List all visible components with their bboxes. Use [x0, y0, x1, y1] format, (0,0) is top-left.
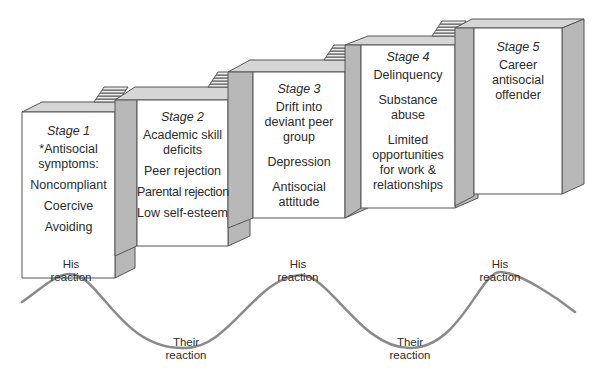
- stage-1-item: Avoiding: [22, 220, 115, 235]
- stage-2-title: Stage 2: [137, 110, 228, 125]
- stage-3-item: Depression: [258, 155, 340, 170]
- stage-5-text: Stage 5 Career antisocial offender: [478, 40, 558, 109]
- stage-5-item: Career antisocial offender: [478, 58, 558, 103]
- wave-label-his-reaction: His reaction: [272, 258, 324, 284]
- stage-1-title: Stage 1: [22, 124, 115, 139]
- stage-4-item: Substance abuse: [363, 93, 453, 123]
- wave-label-their-reaction: Their reaction: [384, 336, 436, 362]
- stage-2-item: Parental rejection: [137, 185, 228, 200]
- stage-3-item: Antisocial attitude: [258, 180, 340, 210]
- wave-label-their-reaction: Their reaction: [160, 336, 212, 362]
- stage-1-item: Coercive: [22, 199, 115, 214]
- stage-1-item: *Antisocial symptoms:: [22, 142, 115, 172]
- wave-label-his-reaction: His reaction: [474, 258, 526, 284]
- stage-2-item: Academic skill deficits: [137, 128, 228, 158]
- stage-4-item: Limited opportunities for work & relatio…: [363, 133, 453, 193]
- stage-4-title: Stage 4: [363, 50, 453, 65]
- wave-label-his-reaction: His reaction: [46, 258, 96, 284]
- stage-5-title: Stage 5: [478, 40, 558, 55]
- stage-2-item: Low self-esteem: [137, 206, 228, 221]
- stage-4-item: Delinquency: [363, 68, 453, 83]
- stage-4-text: Stage 4 Delinquency Substance abuse Limi…: [363, 50, 453, 199]
- stage-1-text: Stage 1 *Antisocial symptoms: Noncomplia…: [22, 124, 115, 241]
- stage-3-item: Drift into deviant peer group: [258, 100, 340, 145]
- stage-2-text: Stage 2 Academic skill deficits Peer rej…: [137, 110, 228, 227]
- stage-2-item: Peer rejection: [137, 164, 228, 179]
- stage-1-item: Noncompliant: [22, 178, 115, 193]
- stage-3-title: Stage 3: [258, 82, 340, 97]
- stage-3-text: Stage 3 Drift into deviant peer group De…: [258, 82, 340, 216]
